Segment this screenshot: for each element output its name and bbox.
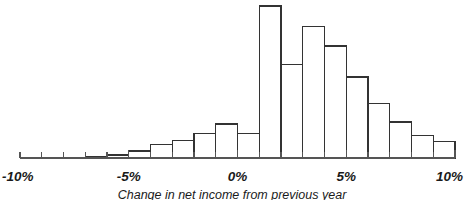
x-axis-tick-label: 10%	[436, 169, 463, 184]
histogram-bar	[433, 141, 455, 158]
histogram-bar	[325, 46, 347, 158]
histogram-bar	[346, 77, 368, 158]
x-axis-tick-label: 0%	[228, 169, 248, 184]
histogram-bar	[412, 136, 434, 158]
bars-group	[85, 6, 455, 158]
histogram-bar	[129, 151, 151, 158]
histogram-bar	[390, 122, 412, 158]
histogram-bar	[216, 124, 238, 158]
x-axis-tick-label: -10%	[2, 169, 34, 184]
histogram-bar	[151, 144, 173, 158]
x-axis-tick-labels: -10%-5%0%5%10%	[2, 169, 463, 184]
histogram-bar	[194, 134, 216, 158]
x-axis-tick-label: -5%	[117, 169, 141, 184]
x-axis-title: Change in net income from previous year	[118, 188, 347, 200]
histogram-bar	[259, 6, 281, 158]
histogram-bar	[303, 26, 325, 158]
histogram-bar	[238, 134, 260, 158]
histogram-plot-area: -10%-5%0%5%10% Change in net income from…	[0, 0, 465, 200]
histogram-bar	[172, 140, 194, 158]
histogram-chart: -10%-5%0%5%10% Change in net income from…	[0, 0, 465, 200]
x-axis-tick-label: 5%	[336, 169, 356, 184]
histogram-bar	[368, 103, 390, 158]
histogram-bar	[281, 64, 303, 158]
